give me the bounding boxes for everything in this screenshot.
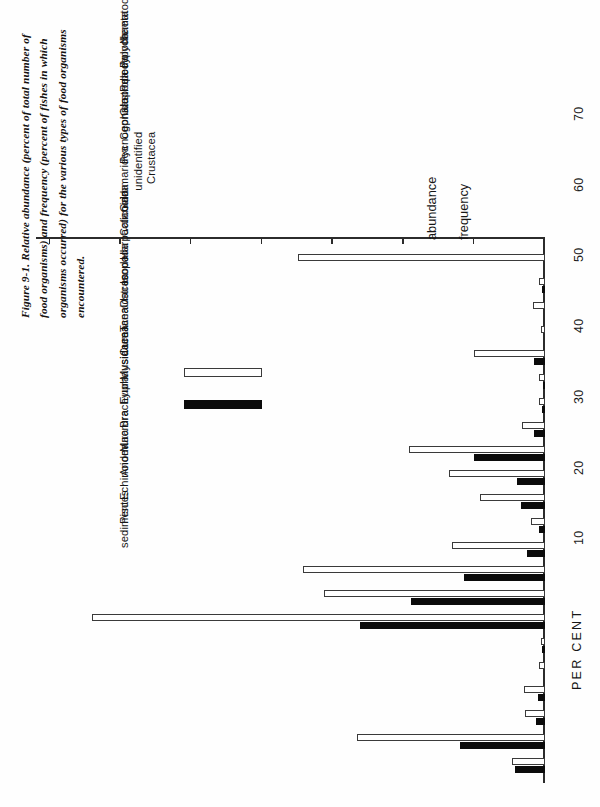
bar-abundance (464, 574, 545, 581)
bar-abundance (474, 454, 545, 461)
bar-abundance (543, 382, 545, 389)
legend-swatch-frequency (184, 368, 262, 377)
bar-frequency (512, 758, 545, 765)
bar-frequency (541, 326, 545, 333)
axis-tick-label: 20 (572, 460, 586, 475)
bar-frequency (298, 254, 546, 261)
bar-frequency (409, 446, 545, 453)
bar-abundance (534, 358, 545, 365)
bar-abundance (460, 742, 545, 749)
axis-tick-label: 30 (572, 389, 586, 404)
axis-title: PER CENT (570, 609, 584, 690)
bar-abundance (542, 406, 545, 413)
bar-frequency (480, 494, 545, 501)
bar-abundance (521, 502, 545, 509)
bar-frequency (303, 566, 545, 573)
bar-frequency (92, 614, 545, 621)
bar-abundance (542, 646, 545, 653)
bar-frequency (474, 350, 545, 357)
axis-tick-label: 50 (572, 248, 586, 263)
bar-frequency (539, 398, 545, 405)
bar-frequency (539, 278, 545, 285)
bar-frequency (324, 590, 545, 597)
bar-frequency (525, 710, 545, 717)
chart-plot-area (0, 0, 600, 807)
legend-swatch-abundance (184, 400, 262, 409)
bar-frequency (357, 734, 545, 741)
axis-tick-label: 40 (572, 319, 586, 334)
category-label-line: Crustacea (145, 132, 158, 184)
bar-abundance (534, 430, 545, 437)
bar-abundance (515, 766, 545, 773)
chart-rotated-group (0, 0, 600, 807)
bar-frequency (531, 518, 545, 525)
figure-page: Figure 9-1. Relative abundance (percent … (0, 0, 600, 807)
bar-frequency (539, 374, 545, 381)
category-label-unidentified-crustacea: unidentifiedCrustacea (132, 132, 157, 194)
value-axis-line (543, 239, 545, 783)
category-label-line: unidentified (132, 132, 145, 194)
axis-tick-label: 60 (572, 177, 586, 192)
bar-abundance (539, 526, 545, 533)
bar-frequency (522, 422, 545, 429)
legend-label-frequency: frequency (456, 184, 471, 240)
axis-tick-label: 70 (572, 106, 586, 121)
bar-abundance (538, 694, 545, 701)
bar-abundance (517, 478, 545, 485)
bar-frequency (541, 638, 545, 645)
axis-tick-label: 10 (572, 531, 586, 546)
category-label-sediment: sediment (118, 501, 130, 548)
bar-abundance (542, 286, 545, 293)
bar-abundance (536, 718, 545, 725)
bar-abundance (527, 550, 545, 557)
legend-label-abundance: abundance (424, 177, 439, 240)
bar-frequency (533, 302, 545, 309)
bar-abundance (411, 598, 545, 605)
bar-frequency (449, 470, 545, 477)
bar-abundance (360, 622, 545, 629)
bar-frequency (524, 686, 545, 693)
bar-frequency (539, 662, 545, 669)
bar-frequency (452, 542, 545, 549)
